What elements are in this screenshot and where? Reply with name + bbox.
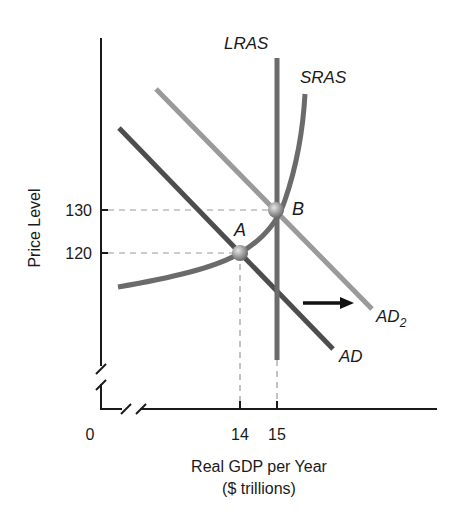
ad-label: AD (338, 347, 363, 366)
shift-arrow-icon (303, 297, 354, 309)
x-tick-14: 14 (231, 426, 249, 443)
y-tick-120: 120 (65, 245, 92, 262)
point-b-label: B (292, 199, 304, 219)
dashed-guides (108, 210, 277, 401)
y-axis (96, 38, 108, 410)
x-tick-15: 15 (268, 426, 286, 443)
x-axis-title-line1: Real GDP per Year (191, 458, 327, 475)
y-tick-130: 130 (65, 202, 92, 219)
x-tick-0: 0 (86, 426, 95, 443)
sras-label: SRAS (300, 68, 347, 87)
point-a-label: A (233, 220, 246, 240)
ad2-label: AD2 (375, 307, 407, 330)
point-a-marker (232, 245, 248, 261)
y-axis-title: Price Level (26, 188, 43, 267)
point-b-marker (268, 202, 284, 218)
lras-label: LRAS (224, 34, 269, 53)
x-axis (100, 401, 437, 414)
chart-canvas: LRAS SRAS AD AD2 A B 130 120 Price Level… (0, 0, 459, 523)
x-axis-title-line2: ($ trillions) (222, 480, 296, 497)
